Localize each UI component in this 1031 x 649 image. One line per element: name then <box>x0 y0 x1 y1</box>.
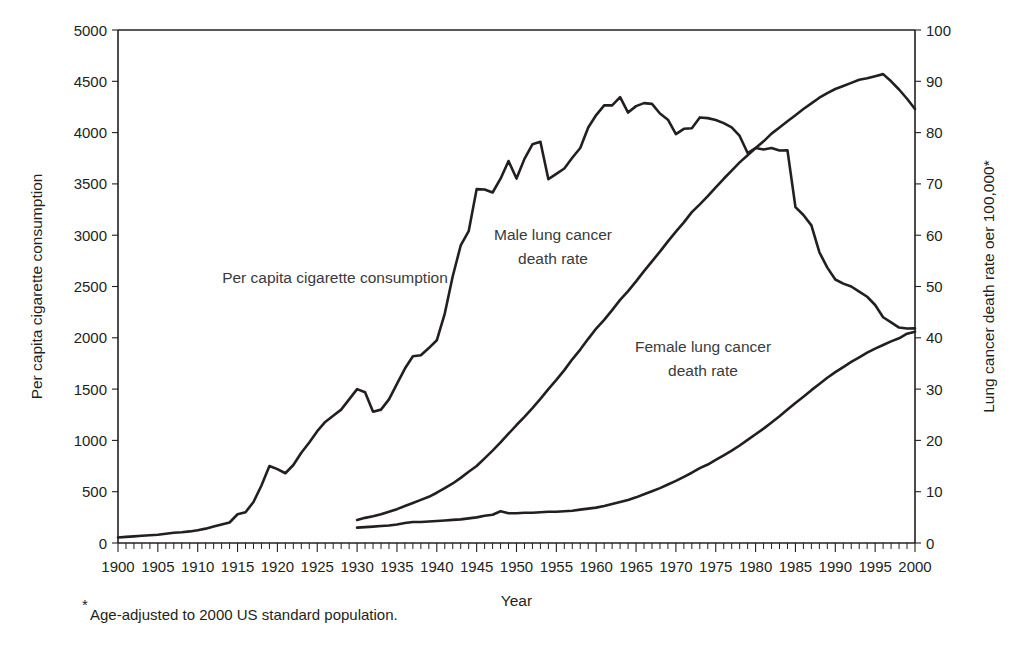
annotation-male-line2: death rate <box>518 250 588 267</box>
x-tick-label: 1950 <box>500 558 533 575</box>
x-tick-label: 1965 <box>619 558 652 575</box>
x-tick-label: 1940 <box>420 558 453 575</box>
y-tick-label-right: 100 <box>926 22 951 39</box>
y-tick-label-right: 70 <box>926 175 943 192</box>
annotation-male: Male lung cancer <box>494 226 612 243</box>
chart-canvas: 0500100015002000250030003500400045005000… <box>0 0 1031 649</box>
y-tick-label-right: 10 <box>926 483 943 500</box>
y-tick-label-left: 500 <box>82 483 107 500</box>
y-tick-label-right: 40 <box>926 329 943 346</box>
x-tick-label: 1960 <box>580 558 613 575</box>
x-tick-label: 1910 <box>181 558 214 575</box>
annotation-consumption: Per capita cigarette consumption <box>222 269 448 286</box>
footnote: Age-adjusted to 2000 US standard populat… <box>90 606 398 623</box>
x-axis-title: Year <box>501 592 532 609</box>
series-line-per-capita-cigarette-consumption <box>118 97 915 537</box>
x-tick-label: 1930 <box>340 558 373 575</box>
y-tick-label-left: 2500 <box>74 278 107 295</box>
x-tick-label: 1995 <box>858 558 891 575</box>
x-tick-label: 1945 <box>460 558 493 575</box>
x-tick-label: 1955 <box>540 558 573 575</box>
y-tick-label-left: 5000 <box>74 22 107 39</box>
x-tick-label: 1990 <box>819 558 852 575</box>
y-tick-label-left: 4000 <box>74 124 107 141</box>
x-tick-label: 1925 <box>301 558 334 575</box>
y-tick-label-right: 20 <box>926 432 943 449</box>
y-tick-label-right: 50 <box>926 278 943 295</box>
x-tick-label: 1970 <box>659 558 692 575</box>
y-tick-label-right: 60 <box>926 227 943 244</box>
y-tick-label-right: 90 <box>926 73 943 90</box>
y-tick-label-left: 2000 <box>74 329 107 346</box>
y-tick-label-left: 1500 <box>74 381 107 398</box>
footnote-marker: * <box>82 596 88 613</box>
y-tick-label-left: 4500 <box>74 73 107 90</box>
chart-axes <box>112 30 921 552</box>
y-tick-label-left: 3500 <box>74 175 107 192</box>
x-tick-label: 1985 <box>779 558 812 575</box>
x-tick-label: 1905 <box>141 558 174 575</box>
chart-labels: 0500100015002000250030003500400045005000… <box>28 22 997 610</box>
y-tick-label-left: 1000 <box>74 432 107 449</box>
x-tick-label: 1900 <box>101 558 134 575</box>
chart-series <box>118 74 915 537</box>
x-tick-label: 2000 <box>898 558 931 575</box>
series-line-female-lung-cancer-death-rate <box>357 332 915 528</box>
y-tick-label-right: 80 <box>926 124 943 141</box>
y-tick-label-left: 0 <box>99 535 107 552</box>
y-tick-label-right: 0 <box>926 535 934 552</box>
y-axis-title-left: Per capita cigarette consumption <box>28 174 45 400</box>
series-line-male-lung-cancer-death-rate <box>357 74 915 520</box>
x-tick-label: 1980 <box>739 558 772 575</box>
y-tick-label-right: 30 <box>926 381 943 398</box>
y-axis-title-right: Lung cancer death rate oer 100,000* <box>980 160 997 413</box>
x-tick-label: 1920 <box>261 558 294 575</box>
annotation-female: Female lung cancer <box>635 338 771 355</box>
x-tick-label: 1915 <box>221 558 254 575</box>
x-tick-label: 1975 <box>699 558 732 575</box>
annotation-female-line2: death rate <box>668 362 738 379</box>
x-tick-label: 1935 <box>380 558 413 575</box>
y-tick-label-left: 3000 <box>74 227 107 244</box>
chart-figure: 0500100015002000250030003500400045005000… <box>0 0 1031 649</box>
